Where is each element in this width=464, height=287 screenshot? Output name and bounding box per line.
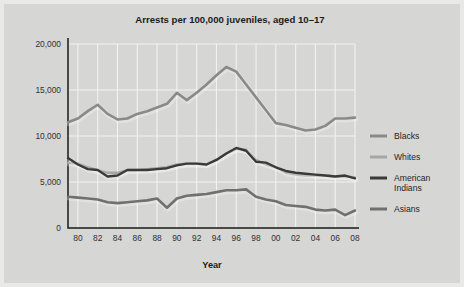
plot-area-wrapper: 05,00010,00015,00020,0008082848688909294… [0,0,464,287]
legend-label-american-indians-line2: Indians [394,183,422,193]
legend-label-asians: Asians [394,204,420,214]
y-tick-label: 0 [56,223,61,233]
tick-labels: 05,00010,00015,00020,0008082848688909294… [35,39,360,243]
chart-figure: 05,00010,00015,00020,0008082848688909294… [0,0,464,287]
x-tick-label: 94 [212,233,222,243]
y-tick-label: 5,000 [40,177,61,187]
x-tick-label: 92 [192,233,202,243]
chart-title: Arrests per 100,000 juveniles, aged 10–1… [135,14,324,25]
x-tick-label: 86 [133,233,143,243]
x-tick-label: 02 [291,233,301,243]
chart-legend: BlacksWhitesAmericanIndiansAsians [370,131,431,214]
y-tick-label: 10,000 [35,131,61,141]
line-chart-svg: 05,00010,00015,00020,0008082848688909294… [0,0,464,287]
data-series [68,67,356,217]
legend-label-whites: Whites [394,152,420,162]
x-tick-label: 90 [172,233,182,243]
legend-label-blacks: Blacks [394,131,419,141]
x-axis-label: Year [202,260,222,270]
legend-label-american-indians: American [394,173,431,183]
y-tick-label: 15,000 [35,85,61,95]
x-tick-label: 82 [93,233,103,243]
x-tick-label: 08 [350,233,360,243]
x-tick-label: 04 [311,233,321,243]
x-tick-label: 84 [113,233,123,243]
x-tick-label: 06 [331,233,341,243]
x-tick-label: 88 [152,233,162,243]
x-tick-label: 80 [73,233,83,243]
series-line-blacks [68,67,355,130]
y-tick-label: 20,000 [35,39,61,49]
x-tick-label: 98 [251,233,261,243]
x-tick-label: 96 [232,233,242,243]
gridlines [68,44,355,228]
x-tick-label: 00 [271,233,281,243]
